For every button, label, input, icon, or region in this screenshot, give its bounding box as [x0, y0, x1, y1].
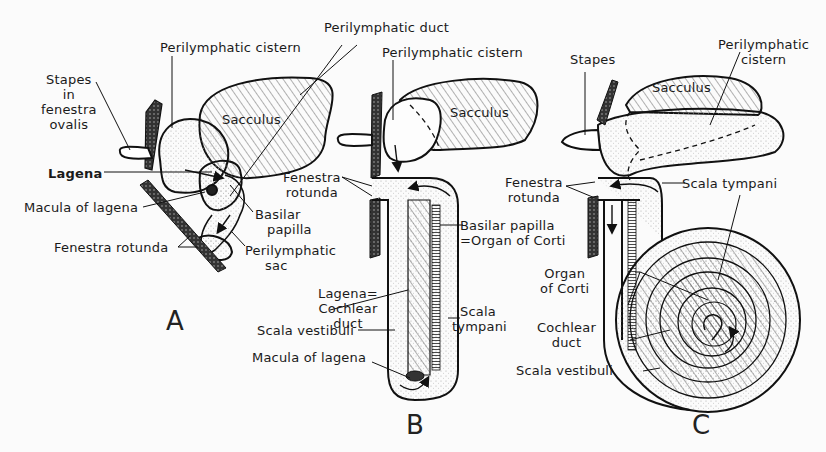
- label-sacculus-c: Sacculus: [652, 80, 711, 95]
- label-fenestra-rotunda-b: Fenestra rotunda: [283, 170, 341, 200]
- label-line: Scala: [452, 304, 507, 319]
- label-line: of Corti: [540, 281, 589, 296]
- label-stapes-c: Stapes: [570, 52, 616, 67]
- label-line: duct: [537, 335, 596, 350]
- label-sacculus-b: Sacculus: [450, 105, 509, 120]
- label-line: Perilymphatic: [718, 37, 809, 52]
- label-perilymphatic-duct: Perilymphatic duct: [324, 20, 449, 35]
- panel-c-drawing: [562, 76, 800, 412]
- label-line: tympani: [452, 319, 507, 334]
- label-line: Lagena=: [318, 286, 378, 301]
- label-stapes-in-fenestra-ovalis: Stapes in fenestra ovalis: [41, 72, 97, 132]
- panel-letter-a: A: [166, 306, 184, 336]
- label-line: fenestra: [41, 102, 97, 117]
- label-basilar-papilla-a: Basilar papilla: [255, 207, 312, 237]
- label-line: sac: [245, 258, 336, 273]
- label-perilymphatic-sac: Perilymphatic sac: [245, 243, 336, 273]
- label-line: Cochlear: [318, 301, 378, 316]
- label-scala-tympani-c: Scala tympani: [682, 176, 777, 191]
- label-line: Perilymphatic: [245, 243, 336, 258]
- label-scala-tympani-b: Scala tympani: [452, 304, 507, 334]
- label-line: rotunda: [283, 185, 341, 200]
- label-fenestra-rotunda-c: Fenestra rotunda: [505, 175, 563, 205]
- label-line: Stapes: [41, 72, 97, 87]
- label-line: rotunda: [505, 190, 563, 205]
- diagram-artwork: [0, 0, 826, 452]
- label-line: Fenestra: [283, 170, 341, 185]
- panel-letter-c: C: [692, 410, 710, 440]
- label-line: papilla: [255, 222, 312, 237]
- label-perilymphatic-cistern-a: Perilymphatic cistern: [160, 40, 301, 55]
- label-line: ovalis: [41, 117, 97, 132]
- label-line: Fenestra: [505, 175, 563, 190]
- label-line: Basilar: [255, 207, 312, 222]
- panel-letter-b: B: [406, 410, 424, 440]
- label-line: Cochlear: [537, 320, 596, 335]
- label-basilar-papilla-organ-of-corti: Basilar papilla =Organ of Corti: [460, 218, 566, 248]
- label-line: cistern: [718, 52, 809, 67]
- label-line: =Organ of Corti: [460, 233, 566, 248]
- label-line: Basilar papilla: [460, 218, 566, 233]
- label-scala-vestibuli-c: Scala vestibuli: [516, 363, 613, 378]
- label-perilymphatic-cistern-b: Perilymphatic cistern: [382, 45, 523, 60]
- label-perilymphatic-cistern-c: Perilymphatic cistern: [718, 37, 809, 67]
- label-scala-vestibuli-b: Scala vestibuli: [257, 323, 354, 338]
- label-line: Organ: [540, 266, 589, 281]
- label-fenestra-rotunda-a: Fenestra rotunda: [54, 240, 168, 255]
- label-line: in: [41, 87, 97, 102]
- label-sacculus-a: Sacculus: [222, 112, 281, 127]
- label-organ-of-corti-c: Organ of Corti: [540, 266, 589, 296]
- label-lagena-a: Lagena: [48, 166, 102, 181]
- label-macula-of-lagena-b: Macula of lagena: [252, 350, 366, 365]
- label-cochlear-duct-c: Cochlear duct: [537, 320, 596, 350]
- label-macula-of-lagena-a: Macula of lagena: [24, 200, 138, 215]
